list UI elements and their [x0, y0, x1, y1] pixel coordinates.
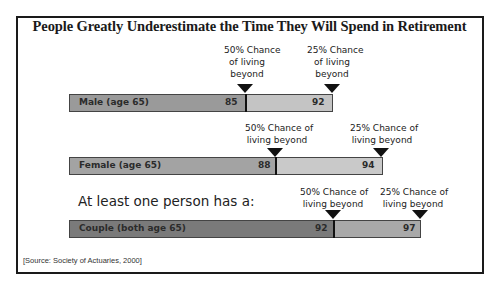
male-value-50: 85 [225, 97, 238, 107]
annotation-line: 50% Chance [224, 44, 270, 56]
couple-annotation-25: 25% Chance of living beyond [380, 186, 446, 210]
annotation-line: of living [224, 56, 270, 68]
female-value-50: 88 [258, 160, 271, 170]
annotation-line: living beyond [350, 134, 414, 146]
annotation-line: beyond [307, 68, 357, 80]
annotation-line: living beyond [245, 134, 309, 146]
annotation-line: 25% Chance of [350, 122, 414, 134]
chart-title: People Greatly Underestimate the Time Th… [0, 18, 499, 35]
annotation-line: 25% Chance [307, 44, 357, 56]
female-marker-25-icon [373, 148, 389, 157]
female-bar: Female (age 65) 88 94 [69, 157, 383, 175]
couple-annotation-50: 50% Chance of living beyond [300, 186, 366, 210]
annotation-line: 25% Chance of [380, 186, 446, 198]
couple-divider [333, 220, 335, 238]
female-value-25: 94 [362, 160, 375, 170]
couple-label: Couple (both age 65) [79, 223, 186, 233]
annotation-line: 50% Chance of [300, 186, 366, 198]
annotation-line: beyond [224, 68, 270, 80]
male-divider [245, 94, 247, 112]
female-divider [275, 157, 277, 175]
male-bar: Male (age 65) 85 92 [69, 94, 333, 112]
male-marker-25-icon [324, 84, 340, 93]
male-annotation-25: 25% Chance of living beyond [307, 44, 357, 80]
male-marker-50-icon [237, 84, 253, 93]
annotation-line: 50% Chance of [245, 122, 309, 134]
female-annotation-25: 25% Chance of living beyond [350, 122, 414, 146]
annotation-line: living beyond [380, 198, 446, 210]
couple-value-50: 92 [315, 223, 328, 233]
male-label: Male (age 65) [79, 97, 149, 107]
female-marker-50-icon [267, 148, 283, 157]
male-annotation-50: 50% Chance of living beyond [224, 44, 270, 80]
male-value-25: 92 [312, 97, 325, 107]
annotation-line: of living [307, 56, 357, 68]
female-label: Female (age 65) [79, 160, 161, 170]
couple-bar: Couple (both age 65) 92 97 [69, 220, 421, 238]
couple-marker-50-icon [325, 210, 341, 219]
couple-subheading: At least one person has a: [78, 193, 254, 209]
couple-marker-25-icon [412, 210, 428, 219]
source-citation: [Source: Society of Actuaries, 2000] [23, 256, 142, 265]
female-annotation-50: 50% Chance of living beyond [245, 122, 309, 146]
couple-value-25: 97 [403, 223, 416, 233]
annotation-line: living beyond [300, 198, 366, 210]
